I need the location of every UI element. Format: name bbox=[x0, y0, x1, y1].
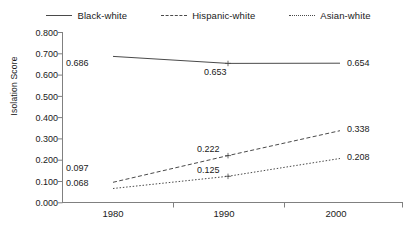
x-tick-label-1990: 1990 bbox=[194, 208, 254, 219]
data-label-black-white-1980: 0.686 bbox=[66, 58, 89, 68]
data-label-black-white-2000: 0.654 bbox=[347, 58, 370, 68]
series-line-black-white bbox=[113, 56, 340, 63]
isolation-score-line-chart: Black-white Hispanic-white Asian-white I… bbox=[0, 0, 417, 234]
data-label-asian-white-1980: 0.068 bbox=[66, 178, 89, 188]
series-line-asian-white bbox=[113, 159, 340, 189]
series-line-hispanic-white bbox=[113, 131, 340, 183]
data-label-hispanic-white-1980: 0.097 bbox=[66, 163, 89, 173]
data-label-asian-white-1990: 0.125 bbox=[197, 165, 220, 175]
data-label-asian-white-2000: 0.208 bbox=[347, 152, 370, 162]
data-label-hispanic-white-1990: 0.222 bbox=[197, 144, 220, 154]
x-tick-label-1980: 1980 bbox=[83, 208, 143, 219]
plot-area bbox=[0, 0, 417, 234]
x-tick-label-2000: 2000 bbox=[306, 208, 366, 219]
data-label-hispanic-white-2000: 0.338 bbox=[347, 124, 370, 134]
data-label-black-white-1990: 0.653 bbox=[204, 67, 227, 77]
